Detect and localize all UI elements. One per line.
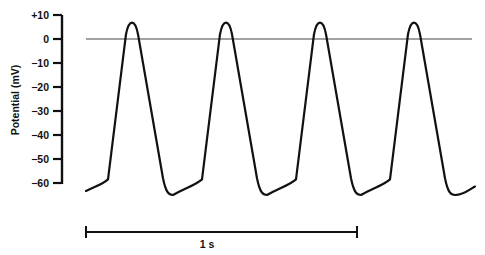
y-tick-label: −60 — [31, 177, 49, 189]
y-tick-label: −20 — [31, 81, 49, 93]
y-axis-title: Potential (mV) — [9, 65, 21, 136]
y-tick-label: −10 — [31, 57, 49, 69]
y-axis: +100−10−20−30−40−50−60 — [31, 9, 62, 189]
time-scale-bar — [86, 226, 357, 238]
y-tick-label: −30 — [31, 105, 49, 117]
y-tick-label: −40 — [31, 129, 49, 141]
y-tick-label: 0 — [43, 33, 49, 45]
scale-bar-label: 1 s — [200, 238, 215, 250]
y-tick-label: +10 — [31, 9, 49, 21]
y-tick-label: −50 — [31, 153, 49, 165]
action-potential-trace — [86, 23, 475, 195]
chart: +100−10−20−30−40−50−60 Potential (mV) 1 … — [0, 0, 485, 255]
